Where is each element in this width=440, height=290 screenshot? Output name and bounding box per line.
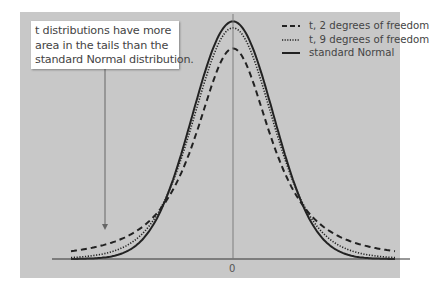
annotation-line-3: standard Normal distribution. xyxy=(35,53,175,68)
dashed-line-icon xyxy=(282,23,300,29)
legend-label-t9: t, 9 degrees of freedom xyxy=(309,34,429,45)
solid-line-icon xyxy=(282,50,300,56)
legend-label-t2: t, 2 degrees of freedom xyxy=(309,20,429,31)
callout-arrowhead-icon xyxy=(102,224,108,230)
annotation-callout: t distributions have more area in the ta… xyxy=(31,21,179,69)
x-tick-zero: 0 xyxy=(229,263,235,274)
dotted-line-icon xyxy=(282,37,300,43)
annotation-line-2: area in the tails than the xyxy=(35,39,175,54)
legend-label-normal: standard Normal xyxy=(309,47,394,58)
annotation-line-1: t distributions have more xyxy=(35,24,175,39)
